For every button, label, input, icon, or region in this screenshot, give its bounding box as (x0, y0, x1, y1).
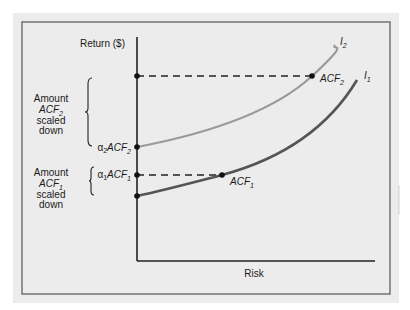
upper-brace-label: Amount ACF2 scaled down (34, 93, 69, 136)
indifference-curve-i2 (137, 45, 337, 147)
svg-text:down: down (39, 125, 63, 136)
certainty-equivalent-diagram: Return ($) Risk I2 I1 ACF2 ACF1 α2ACF2 α… (0, 0, 410, 310)
acf2-axis-point (134, 73, 140, 79)
alpha2-acf2-point (134, 144, 140, 150)
i2-label: I2 (340, 36, 347, 49)
alpha2-acf2-label: α2ACF2 (97, 142, 131, 155)
alpha1-acf1-point (134, 172, 140, 178)
acf2-label: ACF2 (319, 73, 344, 86)
lower-brace (89, 167, 94, 195)
alpha1-acf1-label: α1ACF1 (97, 169, 131, 182)
acf1-label: ACF1 (229, 176, 254, 189)
x-axis-label: Risk (244, 268, 264, 279)
diagram-frame (22, 22, 390, 294)
i1-intercept-point (134, 193, 140, 199)
lower-brace-label: Amount ACF1 scaled down (34, 167, 69, 210)
y-axis-label: Return ($) (80, 38, 125, 49)
i1-label: I1 (364, 70, 371, 83)
svg-text:Amount: Amount (34, 93, 69, 104)
acf1-point (219, 172, 225, 178)
svg-text:down: down (39, 199, 63, 210)
acf2-point (309, 73, 315, 79)
upper-brace (85, 78, 92, 146)
svg-text:Amount: Amount (34, 167, 69, 178)
